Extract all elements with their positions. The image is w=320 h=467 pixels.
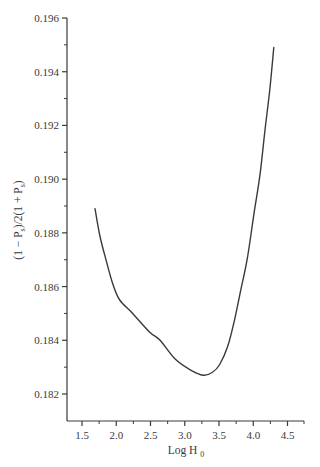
y-tick-label: 0.182 [34, 388, 59, 400]
x-axis: 1.52.02.53.03.54.04.5 [67, 421, 304, 441]
y-tick-label: 0.184 [34, 334, 59, 346]
y-axis-title: (1 − Ps)/2(1 + Ps) [12, 180, 27, 259]
x-tick-label: 3.5 [212, 429, 226, 441]
y-tick-label: 0.190 [34, 173, 59, 185]
x-tick-label: 3.0 [178, 429, 192, 441]
x-tick-label: 2.5 [144, 429, 158, 441]
y-tick-label: 0.194 [34, 66, 59, 78]
data-curve [95, 48, 274, 376]
y-tick-label: 0.196 [34, 12, 59, 24]
x-tick-label: 4.0 [246, 429, 260, 441]
x-axis-title: Log H 0 [168, 444, 205, 459]
plot-area [95, 48, 274, 376]
y-tick-label: 0.192 [34, 119, 59, 131]
y-tick-label: 0.188 [34, 227, 59, 239]
x-tick-label: 1.5 [75, 429, 89, 441]
line-chart: 0.1820.1840.1860.1880.1900.1920.1940.196… [0, 0, 320, 467]
x-tick-label: 2.0 [109, 429, 123, 441]
x-tick-label: 4.5 [281, 429, 295, 441]
y-axis: 0.1820.1840.1860.1880.1900.1920.1940.196 [34, 12, 67, 421]
y-tick-label: 0.186 [34, 281, 59, 293]
